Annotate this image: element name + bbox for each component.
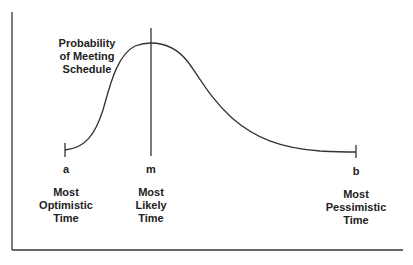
- label-line: Most: [30, 186, 102, 199]
- label-line: Time: [121, 212, 181, 225]
- label-line: Pessimistic: [316, 201, 396, 214]
- curve-title: Probability of Meeting Schedule: [47, 37, 127, 76]
- label-line: Optimistic: [30, 199, 102, 212]
- title-line-3: Schedule: [47, 63, 127, 76]
- point-letter-a: a: [56, 163, 76, 175]
- label-line: Time: [30, 212, 102, 225]
- title-line-2: of Meeting: [47, 50, 127, 63]
- label-line: Most: [316, 188, 396, 201]
- label-optimistic-time: Most Optimistic Time: [30, 186, 102, 225]
- label-line: Most: [121, 186, 181, 199]
- point-letter-b: b: [346, 165, 366, 177]
- label-line: Likely: [121, 199, 181, 212]
- label-line: Time: [316, 214, 396, 227]
- point-letter-m: m: [141, 163, 161, 175]
- title-line-1: Probability: [47, 37, 127, 50]
- label-likely-time: Most Likely Time: [121, 186, 181, 225]
- label-pessimistic-time: Most Pessimistic Time: [316, 188, 396, 227]
